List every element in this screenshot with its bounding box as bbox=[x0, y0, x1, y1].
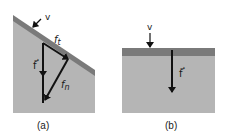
velocity-label-b: v bbox=[147, 22, 153, 32]
horizontal-block bbox=[122, 48, 215, 113]
velocity-arrow-a bbox=[33, 19, 41, 27]
vector-arrow-mark-a: → bbox=[34, 56, 39, 63]
velocity-label-a: v bbox=[45, 12, 51, 22]
panel-a: v ft f → fn (a) bbox=[13, 12, 95, 131]
panel-b: v f → (b) bbox=[122, 22, 215, 131]
caption-a: (a) bbox=[37, 120, 49, 131]
horizontal-surface-band bbox=[122, 48, 215, 56]
caption-b: (b) bbox=[165, 120, 177, 131]
vector-arrow-mark-b: → bbox=[180, 64, 185, 71]
force-diagram: v ft f → fn (a) v f → (b) bbox=[0, 0, 229, 140]
